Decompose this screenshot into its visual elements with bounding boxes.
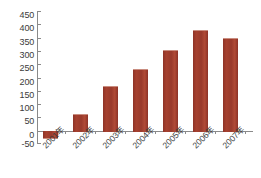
y-axis-tick-label: 450 xyxy=(2,11,34,20)
y-axis-tick-labels: 450 400 350 300 250 200 150 100 50 0 -50 xyxy=(0,11,34,144)
y-axis-tick-label: -50 xyxy=(2,140,34,149)
y-axis-tick xyxy=(38,11,41,12)
y-axis-tick-label: 300 xyxy=(2,51,34,60)
y-axis-tick-label: 250 xyxy=(2,64,34,73)
bar-2003 xyxy=(103,86,118,132)
x-axis-tick-labels: 2001年 2002年 2003年 2004年 2005年 2006年 2007… xyxy=(37,144,261,178)
y-axis-tick xyxy=(38,24,41,25)
y-axis-tick-label: 150 xyxy=(2,91,34,100)
bar-2007 xyxy=(223,38,238,132)
y-axis-tick xyxy=(38,51,41,52)
y-axis-tick xyxy=(38,78,41,79)
y-axis-tick xyxy=(38,38,41,39)
y-axis-tick-label: 50 xyxy=(2,117,34,126)
plot-area xyxy=(37,11,253,144)
bar-chart: 450 400 350 300 250 200 150 100 50 0 -50 xyxy=(0,0,261,178)
bar-2006 xyxy=(193,30,208,132)
y-axis-tick xyxy=(38,91,41,92)
y-axis-tick-label: 200 xyxy=(2,78,34,87)
y-axis-tick-label: 100 xyxy=(2,104,34,113)
y-axis-tick-label: 400 xyxy=(2,24,34,33)
y-axis-tick xyxy=(38,117,41,118)
bar-2005 xyxy=(163,50,178,132)
y-axis-tick xyxy=(38,64,41,65)
y-axis-tick xyxy=(38,104,41,105)
y-axis-tick-label: 350 xyxy=(2,38,34,47)
bar-2004 xyxy=(133,69,148,133)
